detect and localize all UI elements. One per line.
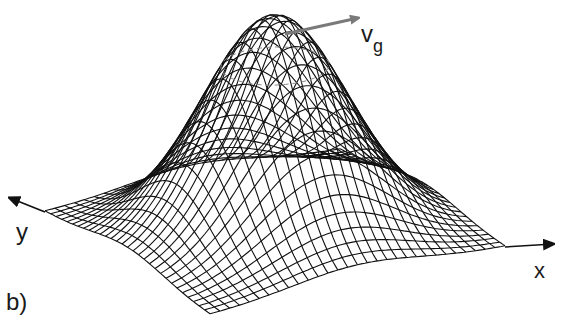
y-axis-arrow (10, 198, 45, 212)
x-axis-label: x (534, 258, 545, 284)
gaussian-surface-mesh (45, 15, 505, 314)
panel-label: b) (6, 288, 27, 316)
group-velocity-label: vg (361, 20, 383, 53)
wave-packet-figure (0, 0, 567, 333)
y-axis-label: y (16, 218, 28, 246)
x-axis-arrow (505, 244, 553, 247)
